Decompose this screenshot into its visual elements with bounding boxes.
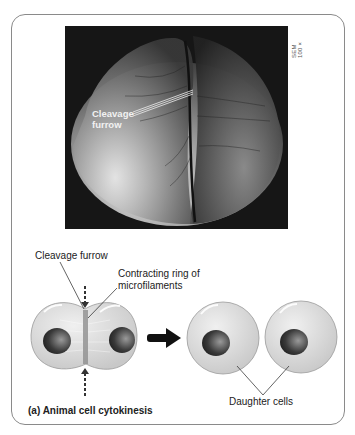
nucleus-left [43,328,71,354]
dashed-arrow-down-icon [81,286,89,308]
ring-label-line1: Contracting ring of [118,268,200,280]
daughter-cells-leader [237,366,289,395]
dividing-cell [31,303,137,370]
dashed-arrow-up-icon [81,368,89,396]
ring-label-line2: microfilaments [118,280,182,292]
cytokinesis-diagram [0,0,355,435]
right-arrow-icon [147,328,181,348]
daughter-cells-label: Daughter cells [229,396,293,408]
contracting-ring [83,310,88,364]
daughter-cell-2 [265,301,337,373]
cleavage-furrow-label: Cleavage furrow [35,250,108,262]
nucleus [202,330,230,356]
daughter-cell-1 [187,302,259,374]
cleavage-furrow-leader [60,262,84,309]
panel-caption: (a) Animal cell cytokinesis [28,405,153,417]
nucleus [280,329,308,355]
nucleus-right [109,327,135,353]
